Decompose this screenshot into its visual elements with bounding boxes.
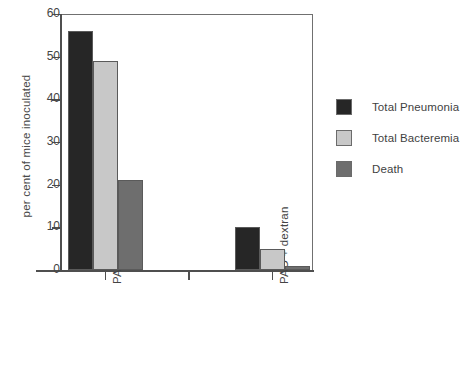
bar-chart-figure: per cent of mice inoculated 010203040506… xyxy=(0,0,466,368)
y-tick-label: 60 xyxy=(14,6,60,20)
bar xyxy=(235,227,260,270)
y-tick-label: 20 xyxy=(14,177,60,191)
legend-swatch-icon xyxy=(336,130,352,146)
y-tick-label: 50 xyxy=(14,49,60,63)
legend-item: Total Pneumonia xyxy=(336,98,459,116)
legend-swatch-icon xyxy=(336,161,352,177)
bar xyxy=(260,249,285,270)
legend-item: Death xyxy=(336,160,403,178)
x-tick-mark xyxy=(188,271,189,280)
x-tick-mark xyxy=(272,271,273,280)
y-tick-label: 40 xyxy=(14,91,60,105)
bar xyxy=(285,266,310,270)
legend-label: Death xyxy=(372,163,403,175)
legend-swatch-icon xyxy=(336,99,352,115)
bar xyxy=(68,31,93,270)
bars-layer xyxy=(60,14,313,270)
y-tick-label: 0 xyxy=(14,262,60,276)
y-tick-label: 10 xyxy=(14,219,60,233)
x-tick-mark xyxy=(105,271,106,280)
bar xyxy=(93,61,118,270)
legend-item: Total Bacteremia xyxy=(336,129,459,147)
bar xyxy=(118,180,143,270)
legend-label: Total Pneumonia xyxy=(372,101,459,113)
legend-label: Total Bacteremia xyxy=(372,132,459,144)
y-tick-label: 30 xyxy=(14,134,60,148)
